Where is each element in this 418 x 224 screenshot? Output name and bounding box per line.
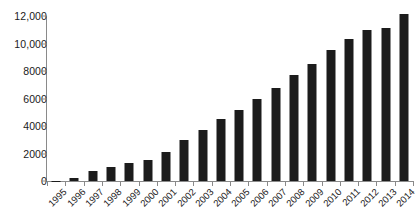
x-axis-tick-label: 1998 (101, 186, 124, 209)
bar-slot (47, 16, 65, 181)
x-axis-tick-label: 2013 (376, 186, 399, 209)
x-axis-tick-mark (413, 181, 414, 186)
bar (125, 163, 134, 181)
bar (308, 64, 317, 181)
bar-slot (395, 16, 413, 181)
x-axis-tick-label: 1999 (120, 186, 143, 209)
x-axis-tick-label: 2004 (211, 186, 234, 209)
bar (363, 30, 372, 181)
x-axis-tick-label: 2010 (321, 186, 344, 209)
bar (326, 50, 335, 181)
x-axis-tick-label: 1996 (65, 186, 88, 209)
bar-slot (230, 16, 248, 181)
bar (107, 167, 116, 181)
x-axis-tick-label: 2006 (248, 186, 271, 209)
bar-slot (193, 16, 211, 181)
bar (381, 28, 390, 181)
bar-slot (248, 16, 266, 181)
bar-slot (267, 16, 285, 181)
bar-slot (102, 16, 120, 181)
bar (235, 110, 244, 182)
x-axis-tick-label: 2002 (175, 186, 198, 209)
bar (161, 152, 170, 181)
bar (399, 14, 408, 181)
x-axis-tick-label: 2007 (266, 186, 289, 209)
bar-slot (175, 16, 193, 181)
bar (216, 119, 225, 181)
bar-slot (358, 16, 376, 181)
bar (180, 140, 189, 181)
bar-slot (157, 16, 175, 181)
x-axis-tick-label: 2014 (394, 186, 417, 209)
x-axis-tick-label: 2000 (138, 186, 161, 209)
bar-slot (285, 16, 303, 181)
x-axis-tick-label: 2008 (284, 186, 307, 209)
x-axis-tick-label: 2009 (303, 186, 326, 209)
bar-slot (303, 16, 321, 181)
bar-slot (65, 16, 83, 181)
x-axis-tick-label: 2003 (193, 186, 216, 209)
bar-chart: 0200040006000800010,00012,000 1995199619… (0, 0, 418, 224)
x-axis-tick-label: 1997 (83, 186, 106, 209)
bar-slot (139, 16, 157, 181)
x-axis-tick-label: 2012 (358, 186, 381, 209)
bar (271, 88, 280, 182)
bar-slot (340, 16, 358, 181)
bar (253, 99, 262, 182)
x-axis-tick-label: 2005 (229, 186, 252, 209)
bar-slot (120, 16, 138, 181)
bar-slot (376, 16, 394, 181)
x-axis-labels: 1995199619971998199920002001200220032004… (47, 186, 413, 224)
bar-slot (84, 16, 102, 181)
bar-slot (322, 16, 340, 181)
bar-series (47, 16, 413, 181)
x-axis-tick-label: 1995 (46, 186, 69, 209)
bar (344, 39, 353, 181)
bar (198, 130, 207, 181)
x-axis-tick-label: 2001 (156, 186, 179, 209)
bar (143, 160, 152, 181)
bar (88, 171, 97, 181)
bar-slot (212, 16, 230, 181)
bar (290, 75, 299, 181)
x-axis-tick-label: 2011 (340, 186, 362, 208)
